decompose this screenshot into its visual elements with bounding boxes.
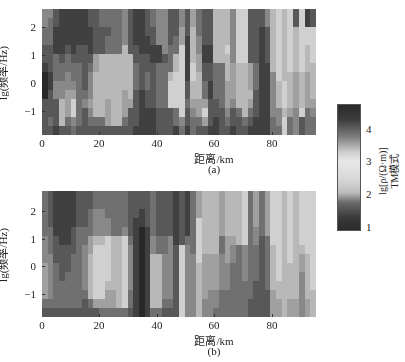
ytick-mark xyxy=(42,239,45,240)
ytick-mark xyxy=(42,266,45,267)
ytick-mark xyxy=(42,55,45,56)
xtick-label: 40 xyxy=(142,319,172,331)
xtick-mark xyxy=(157,132,158,135)
xtick-label: 40 xyxy=(142,137,172,149)
xtick-mark xyxy=(99,314,100,317)
ytick-label: 1 xyxy=(16,234,36,245)
xtick-label: 80 xyxy=(257,319,287,331)
xtick-mark xyxy=(214,314,215,317)
xtick-label: 0 xyxy=(27,319,57,331)
ytick-label: −1 xyxy=(16,289,36,300)
xtick-label: 0 xyxy=(27,137,57,149)
ytick-label: 1 xyxy=(16,50,36,61)
panel-a: 2 1 0 −1 0 20 40 60 80 lg(频率/Hz) 距离/km (… xyxy=(42,9,316,135)
ytick-mark xyxy=(42,83,45,84)
colorbar-tick: 3 xyxy=(366,156,372,167)
colorbar-tick: 4 xyxy=(366,124,372,135)
colorbar-tick: 1 xyxy=(366,222,372,233)
ytick-label: 2 xyxy=(16,206,36,217)
panel-label: (b) xyxy=(194,345,234,357)
heatmap-a xyxy=(42,9,316,135)
xtick-label: 20 xyxy=(84,319,114,331)
colorbar-label: lg[ρ/(Ω·m)] TM模式 xyxy=(377,116,401,226)
ytick-label: 0 xyxy=(16,261,36,272)
xtick-label: 60 xyxy=(199,319,229,331)
xtick-mark xyxy=(214,132,215,135)
xtick-mark xyxy=(272,314,273,317)
xtick-mark xyxy=(157,314,158,317)
y-axis-label: lg(频率/Hz) xyxy=(0,33,10,113)
colorbar-label-line2: TM模式 xyxy=(389,116,401,226)
ytick-mark xyxy=(42,211,45,212)
panel-b: 2 1 0 −1 0 20 40 60 80 lg(频率/Hz) 距离/km (… xyxy=(42,191,316,317)
heatmap-canvas-b xyxy=(42,191,316,317)
xtick-label: 20 xyxy=(84,137,114,149)
heatmap-canvas-a xyxy=(42,9,316,135)
colorbar-label-line1: lg[ρ/(Ω·m)] xyxy=(377,116,389,226)
y-axis-label: lg(频率/Hz) xyxy=(0,215,10,295)
heatmap-b xyxy=(42,191,316,317)
colorbar-tick: 2 xyxy=(366,189,372,200)
xtick-label: 80 xyxy=(257,137,287,149)
ytick-mark xyxy=(42,27,45,28)
ytick-label: 2 xyxy=(16,22,36,33)
ytick-mark xyxy=(42,111,45,112)
ytick-label: −1 xyxy=(16,106,36,117)
xtick-label: 60 xyxy=(199,137,229,149)
colorbar xyxy=(337,104,361,231)
xtick-mark xyxy=(99,132,100,135)
panel-label: (a) xyxy=(194,163,234,175)
ytick-mark xyxy=(42,294,45,295)
xtick-mark xyxy=(272,132,273,135)
ytick-label: 0 xyxy=(16,78,36,89)
